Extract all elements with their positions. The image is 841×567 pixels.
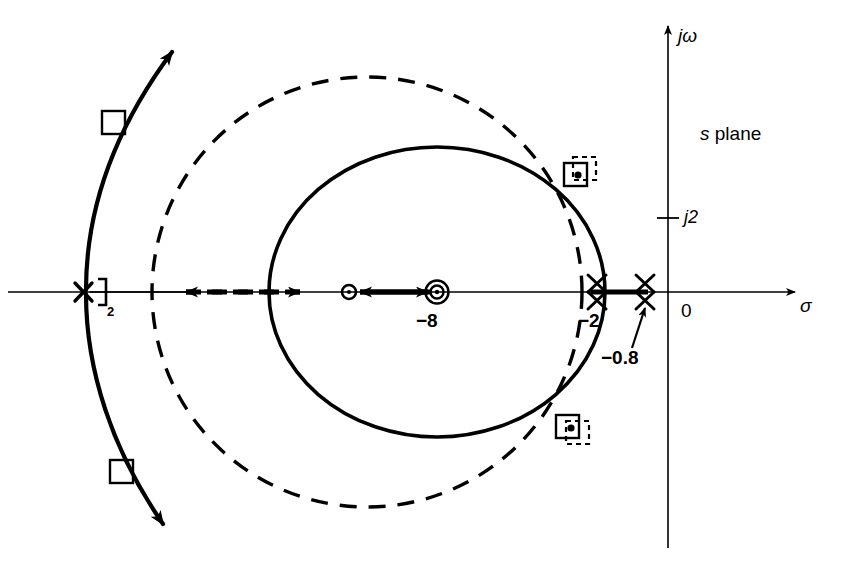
plane-label: s plane [700, 124, 761, 143]
origin-label: 0 [681, 301, 692, 320]
root-locus-figure: jω σ s plane j2 0 −8 −2 −0.8 2 [0, 0, 841, 567]
root-locus-plot [0, 0, 841, 567]
double-zero-label-minus8: −8 [416, 311, 438, 330]
breakaway-marker-lower-right [556, 415, 589, 444]
upper-left-arc [86, 52, 172, 290]
callout-label-minus0p8: −0.8 [601, 348, 639, 367]
multiplicity-label: 2 [107, 305, 114, 318]
lower-left-arc [86, 294, 163, 524]
callout-arrow-minus0p8 [632, 308, 645, 348]
double-pole-label-minus2: −2 [578, 311, 600, 330]
axis-group [8, 26, 795, 548]
breakaway-marker-upper-right [564, 157, 596, 186]
real-axis-label: σ [800, 296, 811, 315]
asymptotic-branches [86, 52, 172, 524]
imaginary-tick-label-j2: j2 [684, 208, 698, 226]
imaginary-axis-label: jω [678, 26, 697, 45]
